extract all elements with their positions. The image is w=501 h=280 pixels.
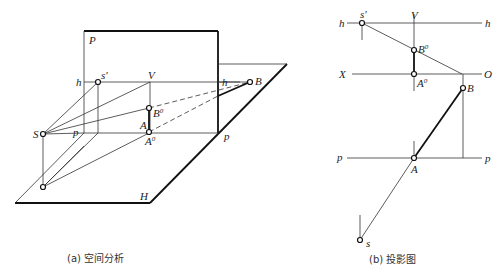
point-a0 xyxy=(412,72,417,77)
label-s-prime: s' xyxy=(101,69,108,81)
ray-s-to-v xyxy=(43,82,150,134)
perspective-diagram: P h h s' V B0 A A0 S p p B H (a) 空间分析 xyxy=(0,0,501,280)
label-B: B xyxy=(255,75,262,87)
ground-plane-left-edge xyxy=(15,133,84,203)
label-p-left: p xyxy=(72,126,79,138)
ray-s-to-b0 xyxy=(43,108,149,134)
label-h-right: h xyxy=(485,17,491,29)
label-A: A xyxy=(139,119,147,131)
label-S: S xyxy=(33,128,39,140)
label-V: V xyxy=(411,9,419,21)
point-s-prime xyxy=(96,80,101,85)
label-A0: A0 xyxy=(416,77,428,89)
point-b xyxy=(248,80,253,85)
label-h-left: h xyxy=(76,76,82,88)
point-b0 xyxy=(147,106,152,111)
label-s: s xyxy=(366,237,370,249)
label-X: X xyxy=(338,68,347,80)
label-h-right: h xyxy=(222,76,228,88)
caption-b: (b) 投影图 xyxy=(369,253,416,265)
figure-b-projection: h h s' V B0 X O A0 B p p A s (b) 投影图 xyxy=(336,8,492,265)
label-s-prime: s' xyxy=(360,8,367,20)
label-B0: B0 xyxy=(418,43,429,55)
label-A0: A0 xyxy=(144,135,156,147)
line-s-to-a xyxy=(360,158,414,240)
label-H: H xyxy=(139,190,149,202)
label-p-right: p xyxy=(484,152,491,164)
label-A: A xyxy=(410,163,418,175)
ground-ray-to-a0 xyxy=(43,133,149,187)
label-B: B xyxy=(467,82,474,94)
point-b xyxy=(461,86,466,91)
label-h-left: h xyxy=(339,17,345,29)
label-p-left: p xyxy=(336,151,343,163)
point-a0 xyxy=(147,130,152,135)
dashed-b0-to-b xyxy=(149,82,250,108)
point-b0 xyxy=(412,48,417,53)
figure-a-spatial-analysis: P h h s' V B0 A A0 S p p B H (a) 空间分析 xyxy=(15,31,287,264)
label-P: P xyxy=(88,34,96,46)
label-p-right: p xyxy=(223,130,230,142)
point-s xyxy=(41,132,46,137)
label-B0: B0 xyxy=(153,107,164,119)
point-s-prime xyxy=(360,21,365,26)
ray-s-to-s-prime xyxy=(43,82,98,134)
label-V: V xyxy=(148,69,156,81)
ground-ray-2 xyxy=(43,146,84,187)
point-s xyxy=(358,238,363,243)
caption-a: (a) 空间分析 xyxy=(67,252,124,264)
line-ab xyxy=(414,88,463,158)
point-a xyxy=(412,156,417,161)
label-O: O xyxy=(484,68,492,80)
point-s-ground xyxy=(41,185,46,190)
